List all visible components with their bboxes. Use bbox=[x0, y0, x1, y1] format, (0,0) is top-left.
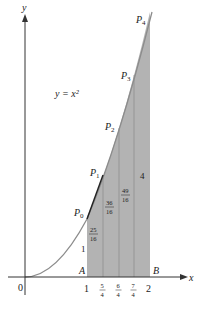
point-p4: P4 bbox=[135, 14, 146, 27]
svg-text:4: 4 bbox=[101, 291, 105, 298]
svg-text:4: 4 bbox=[117, 291, 121, 298]
svg-text:16: 16 bbox=[122, 196, 129, 203]
x-tick-7-4: 7 4 bbox=[131, 282, 137, 298]
endpoint-b: B bbox=[153, 265, 159, 276]
svg-text:16: 16 bbox=[106, 208, 113, 215]
height-label-1: 1 bbox=[81, 244, 86, 254]
height-label-4: 4 bbox=[140, 171, 145, 181]
endpoint-a: A bbox=[78, 265, 86, 276]
x-axis-label: x bbox=[188, 272, 194, 283]
svg-text:36: 36 bbox=[106, 199, 113, 206]
x-tick-2: 2 bbox=[146, 283, 151, 294]
svg-text:5: 5 bbox=[101, 282, 104, 289]
svg-text:6: 6 bbox=[117, 282, 121, 289]
svg-text:7: 7 bbox=[132, 282, 136, 289]
x-tick-5-4: 5 4 bbox=[100, 282, 106, 298]
x-axis-arrow-icon bbox=[180, 274, 188, 280]
point-p3: P3 bbox=[120, 70, 131, 83]
svg-text:4: 4 bbox=[132, 291, 136, 298]
x-tick-6-4: 6 4 bbox=[116, 282, 122, 298]
parabola-diagram: y x 0 y = x² P0 P1 P2 P3 P4 A B 1 5 4 6 … bbox=[0, 0, 203, 309]
point-p0: P0 bbox=[73, 207, 84, 220]
point-p2: P2 bbox=[104, 121, 115, 134]
y-axis-arrow-icon bbox=[22, 14, 28, 22]
svg-text:25: 25 bbox=[90, 226, 97, 233]
origin-label: 0 bbox=[18, 282, 23, 293]
svg-text:16: 16 bbox=[90, 235, 97, 242]
point-p1: P1 bbox=[89, 167, 100, 180]
svg-text:49: 49 bbox=[122, 187, 129, 194]
y-axis-label: y bbox=[21, 2, 27, 13]
x-tick-1: 1 bbox=[84, 283, 89, 294]
equation-label: y = x² bbox=[54, 88, 80, 99]
